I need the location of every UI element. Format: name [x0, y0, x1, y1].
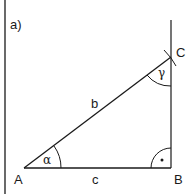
side-b: [24, 57, 171, 168]
triangle-diagram: a) C A B b c α γ: [0, 0, 192, 194]
right-angle-dot: [161, 159, 164, 162]
side-label-b: b: [91, 96, 98, 111]
side-label-c: c: [92, 172, 99, 187]
angle-alpha-arc: [54, 146, 61, 168]
angle-label-alpha: α: [43, 153, 51, 167]
panel-label: a): [10, 17, 22, 32]
vertex-label-c: C: [176, 45, 185, 60]
vertex-label-b: B: [174, 172, 183, 187]
angle-label-gamma: γ: [158, 66, 165, 80]
right-angle-arc: [151, 148, 171, 168]
vertex-label-a: A: [14, 172, 23, 187]
